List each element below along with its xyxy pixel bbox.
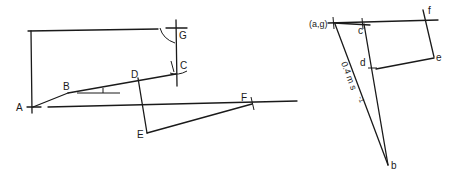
arrow-c — [171, 61, 174, 72]
arc-g — [160, 28, 175, 43]
label-c: C — [180, 60, 187, 71]
vector-fe — [423, 10, 434, 57]
arc-c — [170, 71, 187, 74]
label-f: F — [241, 92, 247, 103]
diagram-canvas: A B C D E F G (a,g) c d e f b 0.4 — [0, 0, 453, 177]
label-e-velocity: e — [436, 52, 442, 63]
label-d: D — [131, 69, 138, 80]
label-b-velocity: b — [391, 160, 397, 171]
slider-guide-g — [176, 20, 177, 86]
frame-top-line — [28, 29, 158, 31]
label-f-velocity: f — [428, 5, 431, 16]
vector-ab — [335, 24, 388, 165]
velocity-horizontal-line — [328, 20, 438, 23]
label-e: E — [137, 129, 144, 140]
vector-de — [376, 58, 434, 69]
link-de — [138, 78, 147, 133]
scale-label: 0.4 m s — [339, 60, 359, 92]
link-ab — [33, 93, 68, 107]
link-ef — [147, 104, 252, 133]
label-c-velocity: c — [358, 25, 363, 36]
space-diagram: A B C D E F G — [16, 20, 297, 140]
vector-cb — [364, 24, 388, 165]
label-ag: (a,g) — [309, 19, 328, 29]
frame-left-line — [31, 31, 32, 113]
slider-guide-f — [48, 101, 297, 107]
label-b: B — [63, 81, 70, 92]
link-bc — [68, 74, 176, 93]
velocity-diagram: (a,g) c d e f b 0.4 m s -1 — [309, 5, 442, 171]
label-d-velocity: d — [360, 57, 366, 68]
label-a: A — [16, 102, 23, 113]
label-g: G — [179, 30, 187, 41]
